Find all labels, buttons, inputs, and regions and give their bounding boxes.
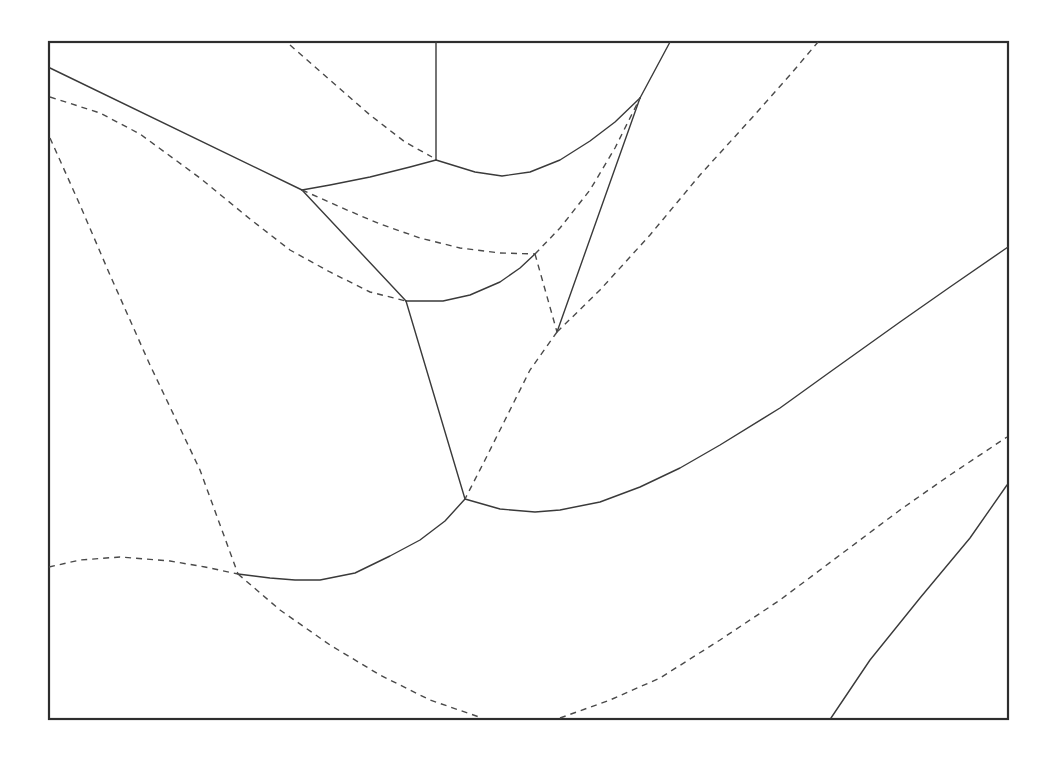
edge-G-to-H	[436, 98, 640, 176]
dashed-edges-group	[49, 42, 1007, 718]
dash-A-to-C	[302, 190, 535, 254]
edge-A-to-G	[302, 160, 436, 190]
dash-C-to-D	[535, 254, 557, 332]
dash-C-to-H	[535, 98, 640, 254]
edge-B-to-C	[406, 254, 535, 301]
dash-left-to-F	[50, 138, 238, 574]
edge-B-to-E	[406, 301, 465, 499]
edge-left-to-A	[50, 68, 302, 190]
dash-D-to-top	[557, 42, 818, 332]
edge-F-to-E	[238, 499, 465, 580]
edge-bottom-right	[831, 485, 1007, 718]
dash-bottom-to-right	[560, 437, 1007, 718]
dash-left-bottom-to-F	[49, 557, 238, 574]
dash-F-to-bottom	[238, 574, 482, 718]
edge-A-to-B	[302, 190, 406, 301]
diagram-canvas	[0, 0, 1046, 757]
edge-E-to-right	[465, 247, 1008, 512]
edge-H-to-top	[640, 42, 670, 98]
dash-top-to-G	[290, 45, 432, 157]
solid-edges-group	[50, 42, 1008, 718]
edge-D-to-H	[557, 98, 640, 332]
dash-left-to-B	[50, 97, 406, 301]
diagram-frame	[49, 42, 1008, 719]
dash-D-to-E	[465, 332, 557, 499]
